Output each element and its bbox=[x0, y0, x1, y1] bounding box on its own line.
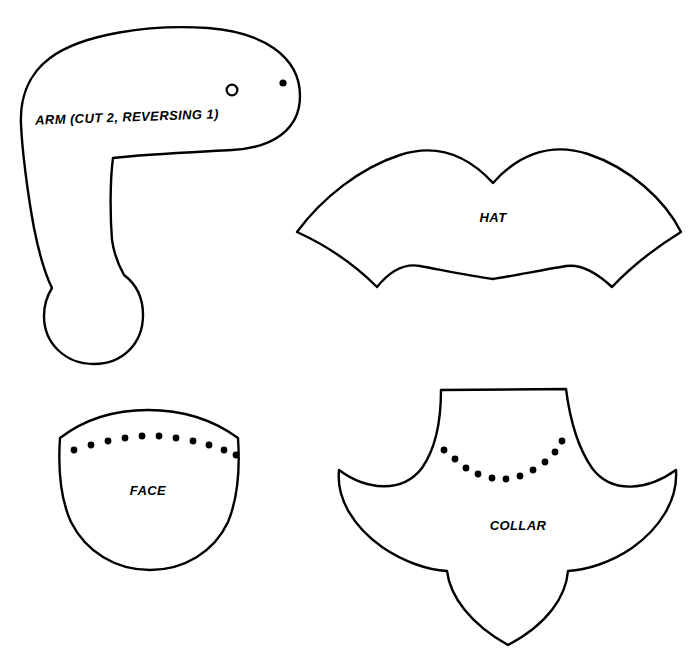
stitch-dot bbox=[517, 473, 524, 480]
stitch-dot bbox=[503, 476, 510, 483]
stitch-dot bbox=[530, 467, 537, 474]
stitch-dot bbox=[233, 452, 240, 459]
pattern-sheet: ARM (CUT 2, REVERSING 1) HAT FACE COLLAR bbox=[0, 0, 700, 659]
stitch-dot bbox=[173, 435, 180, 442]
stitch-dot bbox=[139, 433, 146, 440]
collar-outline[interactable] bbox=[339, 389, 676, 645]
stitch-dot bbox=[559, 438, 566, 445]
stitch-dot bbox=[156, 433, 163, 440]
stitch-dot bbox=[206, 442, 213, 449]
stitch-dot bbox=[190, 438, 197, 445]
collar-label: COLLAR bbox=[490, 518, 547, 533]
pattern-piece-face[interactable]: FACE bbox=[59, 410, 239, 570]
stitch-dot bbox=[221, 447, 228, 454]
stitch-dot bbox=[88, 442, 95, 449]
arm-outline[interactable] bbox=[21, 27, 300, 364]
stitch-dot bbox=[71, 447, 78, 454]
arm-notch-dot-filled-icon bbox=[279, 79, 286, 86]
stitch-dot bbox=[452, 456, 459, 463]
stitch-dot bbox=[441, 447, 448, 454]
stitch-dot bbox=[489, 475, 496, 482]
stitch-dot bbox=[122, 435, 129, 442]
stitch-dot bbox=[552, 449, 559, 456]
pattern-canvas: ARM (CUT 2, REVERSING 1) HAT FACE COLLAR bbox=[0, 0, 700, 659]
stitch-dot bbox=[542, 459, 549, 466]
stitch-dot bbox=[105, 438, 112, 445]
pattern-piece-collar[interactable]: COLLAR bbox=[339, 389, 676, 645]
hat-label: HAT bbox=[480, 210, 508, 225]
pattern-piece-hat[interactable]: HAT bbox=[297, 149, 681, 287]
arm-notch-circle-open-icon bbox=[227, 85, 238, 96]
stitch-dot bbox=[475, 471, 482, 478]
face-label: FACE bbox=[130, 483, 166, 498]
pattern-piece-arm[interactable]: ARM (CUT 2, REVERSING 1) bbox=[21, 27, 300, 364]
stitch-dot bbox=[463, 465, 470, 472]
